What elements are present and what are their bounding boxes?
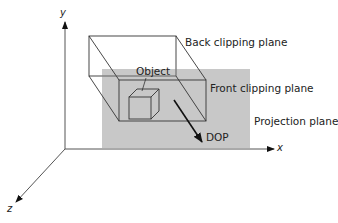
dop-label: DOP — [206, 132, 229, 143]
projection-plane-label: Projection plane — [254, 116, 338, 127]
z-axis-label: z — [7, 204, 12, 214]
x-axis-label: x — [277, 143, 283, 153]
y-axis-label: y — [60, 8, 66, 18]
front-clipping-plane-label: Front clipping plane — [210, 83, 314, 94]
back-clipping-plane-label: Back clipping plane — [185, 37, 287, 48]
z-axis — [16, 149, 65, 202]
object-label: Object — [136, 66, 170, 77]
